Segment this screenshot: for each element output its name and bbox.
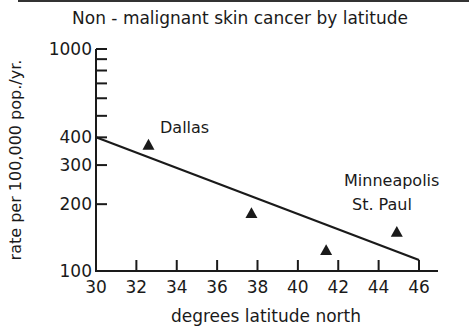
svg-text:1000: 1000	[49, 39, 92, 59]
triangle-marker	[320, 244, 332, 255]
chart: Non - malignant skin cancer by latitude …	[0, 0, 469, 329]
x-axis-label: degrees latitude north	[171, 306, 361, 326]
svg-text:40: 40	[287, 277, 309, 297]
svg-text:100: 100	[60, 261, 92, 281]
svg-text:44: 44	[368, 277, 390, 297]
triangle-marker	[142, 139, 154, 150]
y-axis-ticks: 1002003004001000	[49, 39, 107, 281]
svg-text:200: 200	[60, 194, 92, 214]
svg-text:42: 42	[327, 277, 349, 297]
axes	[95, 49, 438, 272]
y-axis-label: rate per 100,000 pop./yr.	[6, 60, 25, 261]
svg-text:34: 34	[166, 277, 188, 297]
label-minneapolis: Minneapolis	[344, 171, 439, 190]
label-dallas: Dallas	[160, 118, 209, 137]
svg-text:400: 400	[60, 127, 92, 147]
triangle-marker	[391, 226, 403, 237]
triangle-marker	[245, 207, 257, 218]
label-stpaul: St. Paul	[352, 195, 412, 214]
svg-text:300: 300	[60, 155, 92, 175]
svg-text:36: 36	[206, 277, 228, 297]
svg-text:32: 32	[126, 277, 148, 297]
svg-text:38: 38	[247, 277, 269, 297]
svg-text:46: 46	[408, 277, 430, 297]
chart-title: Non - malignant skin cancer by latitude	[72, 8, 408, 28]
x-axis-ticks: 303234363840424446	[85, 260, 430, 297]
